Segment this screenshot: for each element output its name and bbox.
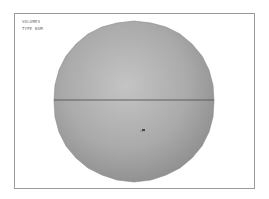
sphere-model [0, 0, 269, 199]
sphere-volume [54, 21, 214, 182]
